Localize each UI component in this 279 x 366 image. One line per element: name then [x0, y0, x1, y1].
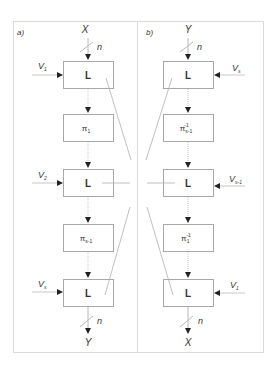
- panel-a: a) X n L V1 π1 L V2 πs-1 L Vs n Y: [17, 24, 114, 348]
- svg-text:L: L: [85, 70, 91, 81]
- svg-text:n: n: [197, 42, 202, 52]
- svg-text:L: L: [85, 288, 91, 299]
- bus-slash: [80, 316, 93, 327]
- cipher-diagram: a) X n L V1 π1 L V2 πs-1 L Vs n Y: [0, 0, 279, 366]
- svg-text:L: L: [85, 178, 91, 189]
- svg-text:n: n: [97, 316, 102, 326]
- key-label: V2: [38, 170, 47, 181]
- panel-a-tag: a): [17, 28, 24, 37]
- key-label: Vs: [232, 63, 241, 74]
- input-label-x: X: [81, 24, 89, 35]
- key-label: V1: [38, 61, 47, 72]
- key-label: Vs: [38, 279, 47, 290]
- panel-b-tag: b): [146, 28, 153, 37]
- output-label-y: Y: [85, 337, 93, 348]
- svg-text:L: L: [185, 178, 191, 189]
- bus-slash: [180, 42, 193, 52]
- output-label-x: X: [184, 337, 192, 348]
- bus-slash: [80, 42, 93, 52]
- svg-text:L: L: [185, 70, 191, 81]
- key-label: Vs-1: [229, 174, 242, 185]
- input-label-y: Y: [185, 24, 193, 35]
- outer-frame: [14, 22, 264, 353]
- bus-slash: [180, 316, 193, 327]
- key-label: V1: [230, 280, 239, 291]
- panel-b: b) Y n L Vs πs-1-1 L Vs-1 π1-1 L V1 n X: [146, 24, 245, 348]
- svg-text:n: n: [198, 316, 203, 326]
- bus-width-label: n: [97, 42, 102, 52]
- svg-text:L: L: [185, 288, 191, 299]
